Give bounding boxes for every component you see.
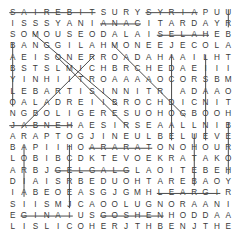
grid-cell[interactable]: T: [98, 154, 109, 165]
grid-cell[interactable]: D: [52, 97, 63, 108]
grid-cell[interactable]: E: [52, 120, 63, 131]
grid-cell[interactable]: R: [120, 63, 131, 74]
grid-cell[interactable]: D: [189, 210, 200, 221]
grid-cell[interactable]: I: [64, 75, 75, 86]
grid-cell[interactable]: E: [189, 165, 200, 176]
grid-cell[interactable]: A: [86, 199, 97, 210]
grid-cell[interactable]: H: [154, 52, 165, 63]
grid-cell[interactable]: A: [18, 7, 29, 18]
grid-cell[interactable]: G: [120, 188, 131, 199]
grid-cell[interactable]: R: [86, 52, 97, 63]
grid-cell[interactable]: T: [189, 154, 200, 165]
grid-cell[interactable]: U: [132, 199, 143, 210]
grid-cell[interactable]: E: [86, 109, 97, 120]
grid-cell[interactable]: D: [75, 154, 86, 165]
grid-cell[interactable]: I: [75, 86, 86, 97]
grid-cell[interactable]: E: [166, 30, 177, 41]
grid-cell[interactable]: N: [109, 131, 120, 142]
grid-cell[interactable]: S: [143, 7, 154, 18]
grid-cell[interactable]: M: [223, 75, 234, 86]
grid-cell[interactable]: C: [132, 63, 143, 74]
grid-cell[interactable]: H: [211, 222, 222, 233]
grid-cell[interactable]: H: [143, 188, 154, 199]
grid-cell[interactable]: E: [52, 7, 63, 18]
grid-cell[interactable]: R: [52, 86, 63, 97]
grid-cell[interactable]: E: [223, 222, 234, 233]
grid-cell[interactable]: N: [30, 41, 41, 52]
grid-cell[interactable]: R: [109, 222, 120, 233]
grid-cell[interactable]: L: [52, 109, 63, 120]
grid-cell[interactable]: U: [109, 176, 120, 187]
grid-cell[interactable]: O: [177, 75, 188, 86]
grid-cell[interactable]: E: [177, 41, 188, 52]
grid-cell[interactable]: E: [166, 222, 177, 233]
grid-cell[interactable]: O: [52, 188, 63, 199]
grid-cell[interactable]: S: [86, 210, 97, 221]
grid-cell[interactable]: B: [154, 131, 165, 142]
grid-cell[interactable]: B: [52, 154, 63, 165]
grid-cell[interactable]: N: [211, 199, 222, 210]
grid-cell[interactable]: B: [30, 109, 41, 120]
grid-cell[interactable]: C: [143, 97, 154, 108]
grid-cell[interactable]: M: [109, 41, 120, 52]
grid-cell[interactable]: O: [223, 154, 234, 165]
grid-cell[interactable]: L: [132, 165, 143, 176]
grid-cell[interactable]: O: [177, 210, 188, 221]
grid-cell[interactable]: A: [120, 52, 131, 63]
grid-cell[interactable]: A: [177, 86, 188, 97]
grid-cell[interactable]: R: [189, 188, 200, 199]
grid-cell[interactable]: A: [132, 30, 143, 41]
grid-cell[interactable]: I: [52, 143, 63, 154]
grid-cell[interactable]: I: [52, 222, 63, 233]
grid-cell[interactable]: T: [154, 18, 165, 29]
grid-cell[interactable]: L: [120, 199, 131, 210]
grid-cell[interactable]: A: [177, 52, 188, 63]
grid-cell[interactable]: A: [223, 41, 234, 52]
grid-cell[interactable]: H: [98, 63, 109, 74]
grid-cell[interactable]: I: [7, 18, 18, 29]
grid-cell[interactable]: O: [52, 52, 63, 63]
grid-cell[interactable]: B: [30, 165, 41, 176]
grid-cell[interactable]: L: [177, 30, 188, 41]
grid-cell[interactable]: A: [98, 18, 109, 29]
grid-cell[interactable]: R: [120, 120, 131, 131]
grid-cell[interactable]: O: [211, 176, 222, 187]
grid-cell[interactable]: A: [86, 41, 97, 52]
grid-cell[interactable]: S: [7, 30, 18, 41]
grid-cell[interactable]: N: [200, 97, 211, 108]
grid-cell[interactable]: H: [166, 210, 177, 221]
grid-cell[interactable]: E: [41, 188, 52, 199]
grid-cell[interactable]: J: [166, 41, 177, 52]
grid-cell[interactable]: H: [143, 222, 154, 233]
grid-cell[interactable]: R: [166, 176, 177, 187]
grid-cell[interactable]: E: [75, 30, 86, 41]
grid-cell[interactable]: I: [18, 199, 29, 210]
grid-cell[interactable]: P: [200, 7, 211, 18]
grid-cell[interactable]: N: [64, 52, 75, 63]
grid-cell[interactable]: N: [166, 143, 177, 154]
grid-cell[interactable]: L: [7, 86, 18, 97]
grid-cell[interactable]: D: [189, 18, 200, 29]
grid-cell[interactable]: T: [52, 131, 63, 142]
grid-cell[interactable]: B: [200, 165, 211, 176]
grid-cell[interactable]: G: [200, 188, 211, 199]
grid-cell[interactable]: A: [41, 86, 52, 97]
grid-cell[interactable]: A: [7, 165, 18, 176]
grid-cell[interactable]: O: [7, 97, 18, 108]
grid-cell[interactable]: O: [64, 131, 75, 142]
grid-cell[interactable]: Y: [211, 18, 222, 29]
grid-cell[interactable]: E: [18, 52, 29, 63]
grid-cell[interactable]: L: [120, 30, 131, 41]
grid-cell[interactable]: I: [41, 154, 52, 165]
grid-cell[interactable]: K: [154, 154, 165, 165]
grid-cell[interactable]: I: [86, 18, 97, 29]
grid-cell[interactable]: A: [211, 86, 222, 97]
grid-cell[interactable]: U: [109, 7, 120, 18]
grid-cell[interactable]: I: [98, 86, 109, 97]
grid-cell[interactable]: M: [30, 30, 41, 41]
grid-cell[interactable]: A: [7, 52, 18, 63]
grid-cell[interactable]: D: [98, 30, 109, 41]
grid-cell[interactable]: N: [177, 222, 188, 233]
grid-cell[interactable]: L: [7, 222, 18, 233]
grid-cell[interactable]: L: [211, 41, 222, 52]
